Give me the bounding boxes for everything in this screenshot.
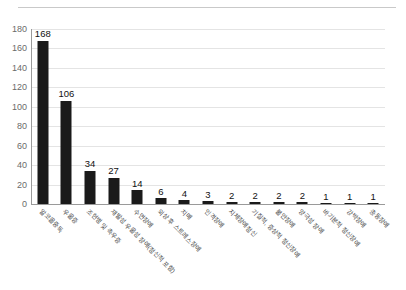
y-tick-label-180: 180 [12, 25, 27, 34]
bar-value-label: 4 [182, 189, 187, 199]
x-label-slot: 외상 후 스트레스장애 [149, 206, 173, 290]
x-label-slot: 지체장애정신 [220, 206, 244, 290]
x-label-slot: 기질적, 증상적 정신장애 [243, 206, 267, 290]
y-tick-label-160: 160 [12, 44, 27, 53]
bar-value-label: 1 [323, 192, 328, 202]
y-tick-label-60: 60 [17, 141, 27, 150]
bar-series: 1681063427146432222111 [31, 29, 385, 204]
y-axis-tick-labels: 020406080100120140160180 [0, 29, 27, 204]
x-category-label: 충동장애 [369, 208, 391, 230]
bar[interactable] [132, 190, 143, 204]
x-label-slot: 인격장애 [196, 206, 220, 290]
bar[interactable] [179, 200, 190, 204]
bar-value-label: 6 [158, 187, 163, 197]
bar[interactable] [297, 202, 308, 204]
x-label-slot: 양극성 장애 [291, 206, 315, 290]
bar-value-label: 1 [371, 192, 376, 202]
bar-slot: 3 [196, 29, 220, 204]
bar-slot: 6 [149, 29, 173, 204]
bar-slot: 4 [173, 29, 197, 204]
bar[interactable] [250, 202, 261, 204]
top-divider-rule [18, 7, 396, 8]
y-tick-label-20: 20 [17, 180, 27, 189]
bar[interactable] [344, 203, 355, 204]
y-tick-label-120: 120 [12, 83, 27, 92]
x-label-slot: 충동장애 [361, 206, 385, 290]
bar[interactable] [273, 202, 284, 204]
x-label-slot: 강박장애 [338, 206, 362, 290]
bar-chart-figure: 020406080100120140160180 168106342714643… [0, 0, 406, 290]
gridline-0 [31, 204, 385, 205]
bar-slot: 14 [125, 29, 149, 204]
bar-slot: 2 [291, 29, 315, 204]
x-label-slot: 조현병 및 측우증 [78, 206, 102, 290]
x-category-label: 우울증 [62, 208, 79, 225]
bar-slot: 1 [361, 29, 385, 204]
y-tick-label-0: 0 [22, 200, 27, 209]
bar-slot: 2 [243, 29, 267, 204]
bar-value-label: 14 [132, 179, 143, 189]
bar-value-label: 2 [229, 191, 234, 201]
bar-value-label: 1 [347, 192, 352, 202]
x-label-slot: 치매 [173, 206, 197, 290]
bar[interactable] [37, 41, 48, 204]
bar[interactable] [320, 203, 331, 204]
bar-value-label: 168 [35, 29, 51, 39]
y-tick-label-100: 100 [12, 102, 27, 111]
bar-slot: 1 [338, 29, 362, 204]
bar[interactable] [108, 178, 119, 204]
bar-slot: 106 [55, 29, 79, 204]
bar-value-label: 2 [276, 191, 281, 201]
bar-value-label: 106 [58, 89, 74, 99]
bar[interactable] [202, 201, 213, 204]
y-tick-label-40: 40 [17, 161, 27, 170]
bar-value-label: 34 [85, 159, 96, 169]
x-label-slot: 수면장애 [125, 206, 149, 290]
bar-value-label: 3 [205, 190, 210, 200]
bar[interactable] [84, 171, 95, 204]
y-tick-label-80: 80 [17, 122, 27, 131]
bar-slot: 2 [220, 29, 244, 204]
bar-slot: 34 [78, 29, 102, 204]
x-label-slot: 불안장애 [267, 206, 291, 290]
x-axis-category-labels: 알코올중독우울증조현병 및 측우증재발성 우울성 장애(정신적 포함)수면장애외… [31, 206, 385, 290]
x-label-slot: 재발성 우울성 장애(정신적 포함) [102, 206, 126, 290]
x-label-slot: 바기분적 정신장애 [314, 206, 338, 290]
bar-slot: 2 [267, 29, 291, 204]
bar[interactable] [226, 202, 237, 204]
bar-slot: 1 [314, 29, 338, 204]
bar-slot: 168 [31, 29, 55, 204]
x-category-label: 치매 [180, 208, 193, 221]
x-label-slot: 우울증 [55, 206, 79, 290]
bar-value-label: 2 [300, 191, 305, 201]
bar-value-label: 2 [253, 191, 258, 201]
bar-value-label: 27 [108, 166, 119, 176]
y-tick-label-140: 140 [12, 63, 27, 72]
x-label-slot: 알코올중독 [31, 206, 55, 290]
bar[interactable] [61, 101, 72, 204]
bar[interactable] [368, 203, 379, 204]
bar-slot: 27 [102, 29, 126, 204]
bar[interactable] [155, 198, 166, 204]
